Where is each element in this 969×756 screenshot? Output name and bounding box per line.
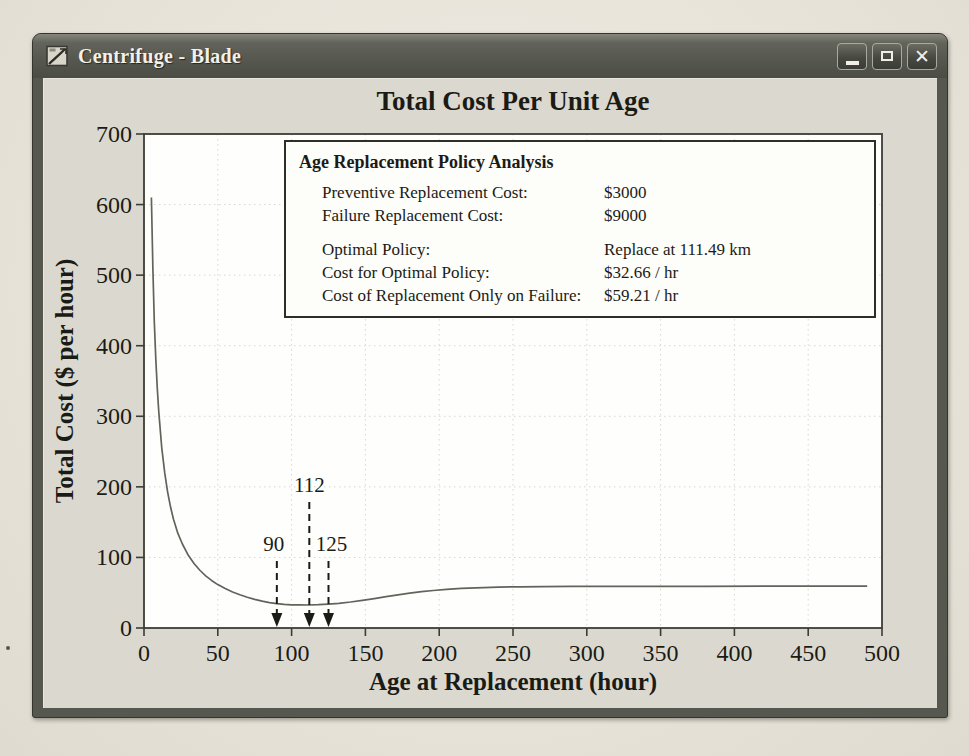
info-row: Failure Replacement Cost:$9000 — [299, 204, 862, 227]
info-row-value: Replace at 111.49 km — [604, 238, 862, 261]
window-controls: ✕ — [837, 43, 937, 70]
x-tick-label: 500 — [864, 640, 900, 666]
y-tick-label: 0 — [120, 615, 132, 641]
info-row-value: $9000 — [604, 204, 862, 227]
scan-artifact-dot — [6, 646, 10, 650]
maximize-icon — [881, 51, 893, 61]
y-tick-label: 700 — [96, 121, 132, 147]
y-tick-label: 500 — [96, 262, 132, 288]
x-tick-label: 250 — [495, 640, 531, 666]
policy-analysis-rows: Preventive Replacement Cost:$3000Failure… — [299, 181, 862, 307]
info-row: Cost for Optimal Policy:$32.66 / hr — [299, 261, 862, 284]
window-titlebar[interactable]: Centrifuge - Blade ✕ — [33, 34, 947, 78]
annotation-label-90: 90 — [263, 532, 284, 556]
info-row-value: $32.66 / hr — [604, 261, 862, 284]
minimize-icon — [846, 61, 859, 65]
policy-analysis-panel: Age Replacement Policy Analysis Preventi… — [284, 140, 876, 318]
info-row-value: $3000 — [604, 181, 862, 204]
info-row-label: Cost for Optimal Policy: — [322, 261, 604, 284]
info-row: Preventive Replacement Cost:$3000 — [299, 181, 862, 204]
app-window: Centrifuge - Blade ✕ Total Cost Per Unit… — [32, 33, 948, 718]
x-tick-label: 100 — [274, 640, 310, 666]
x-tick-label: 350 — [643, 640, 679, 666]
maximize-button[interactable] — [872, 43, 902, 70]
y-axis-label: Total Cost ($ per hour) — [51, 259, 79, 503]
info-row-label: Optimal Policy: — [322, 238, 604, 261]
x-tick-label: 400 — [716, 640, 752, 666]
scanned-page: Centrifuge - Blade ✕ Total Cost Per Unit… — [0, 0, 969, 756]
policy-analysis-title: Age Replacement Policy Analysis — [299, 152, 862, 173]
chart-client-area: Total Cost Per Unit Age 0501001502002503… — [43, 78, 937, 708]
info-row-label: Cost of Replacement Only on Failure: — [322, 284, 604, 307]
x-tick-label: 150 — [347, 640, 383, 666]
x-tick-label: 50 — [206, 640, 230, 666]
y-tick-label: 300 — [96, 403, 132, 429]
x-tick-label: 0 — [138, 640, 150, 666]
close-button[interactable]: ✕ — [907, 43, 937, 70]
info-row-label: Preventive Replacement Cost: — [322, 181, 604, 204]
x-tick-label: 200 — [421, 640, 457, 666]
app-icon — [45, 44, 69, 68]
info-row-value: $59.21 / hr — [604, 284, 862, 307]
x-tick-label: 450 — [790, 640, 826, 666]
y-tick-label: 100 — [96, 544, 132, 570]
info-row-label: Failure Replacement Cost: — [322, 204, 604, 227]
info-row: Cost of Replacement Only on Failure:$59.… — [299, 284, 862, 307]
x-axis-label: Age at Replacement (hour) — [369, 668, 657, 696]
y-tick-label: 400 — [96, 333, 132, 359]
minimize-button[interactable] — [837, 43, 867, 70]
info-row: Optimal Policy:Replace at 111.49 km — [299, 238, 862, 261]
close-icon: ✕ — [914, 47, 930, 66]
x-tick-label: 300 — [569, 640, 605, 666]
y-tick-label: 600 — [96, 192, 132, 218]
window-title: Centrifuge - Blade — [78, 45, 241, 68]
annotation-label-125: 125 — [316, 532, 348, 556]
y-tick-label: 200 — [96, 474, 132, 500]
annotation-label-112: 112 — [294, 473, 325, 497]
